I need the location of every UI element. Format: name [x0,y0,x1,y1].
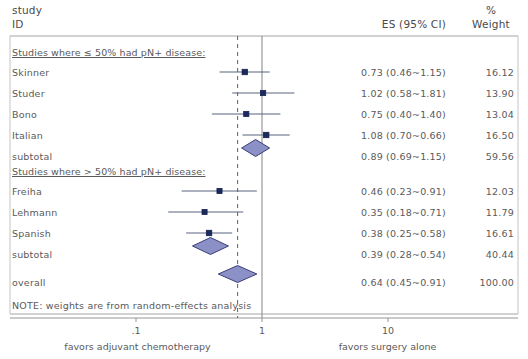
row-weight-bono: 13.04 [468,109,514,120]
row-label-lehmann: Lehmann [12,207,58,218]
header-weight-label: Weight [468,18,514,30]
row-es-subtotal-low: 0.89 (0.69~1.15) [350,151,446,162]
group-heading-high-pn: Studies where > 50% had pN+ disease: [12,166,205,177]
row-es-freiha: 0.46 (0.23~0.91) [350,186,446,197]
row-weight-overall: 100.00 [468,277,514,288]
header-study-label: study [12,4,42,16]
header-es-label: ES (95% CI) [350,18,446,30]
row-weight-subtotal-high: 40.44 [468,249,514,260]
point-estimate-marker-skinner [242,69,247,74]
row-label-skinner: Skinner [12,67,49,78]
point-estimate-marker-spanish [206,230,211,235]
axis-caption-left: favors adjuvant chemotherapy [30,341,245,352]
row-weight-subtotal-low: 59.56 [468,151,514,162]
point-estimate-marker-bono [244,111,249,116]
header-id-label: ID [12,18,24,30]
row-label-spanish: Spanish [12,228,51,239]
axis-caption-right: favors surgery alone [300,341,475,352]
point-estimate-marker-lehmann [202,209,207,214]
row-es-spanish: 0.38 (0.25~0.58) [350,228,446,239]
row-label-freiha: Freiha [12,186,42,197]
row-label-subtotal-low: subtotal [12,151,52,162]
subtotal-diamond-subtotal-low [242,140,270,157]
row-es-lehmann: 0.35 (0.18~0.71) [350,207,446,218]
row-label-italian: Italian [12,130,43,141]
row-label-subtotal-high: subtotal [12,249,52,260]
overall-diamond-overall [218,266,257,283]
row-label-overall: overall [12,277,46,288]
row-weight-skinner: 16.12 [468,67,514,78]
row-es-bono: 0.75 (0.40~1.40) [350,109,446,120]
row-es-italian: 1.08 (0.70~0.66) [350,130,446,141]
row-weight-lehmann: 11.79 [468,207,514,218]
point-estimate-marker-studer [260,90,265,95]
subtotal-diamond-subtotal-high [193,238,229,255]
row-es-overall: 0.64 (0.45~0.91) [350,277,446,288]
header-percent-label: % [468,4,514,16]
group-heading-low-pn: Studies where ≤ 50% had pN+ disease: [12,47,205,58]
row-label-studer: Studer [12,88,45,99]
row-weight-freiha: 12.03 [468,186,514,197]
row-weight-studer: 13.90 [468,88,514,99]
watermark-artifact [430,350,432,355]
row-es-studer: 1.02 (0.58~1.81) [350,88,446,99]
row-es-subtotal-high: 0.39 (0.28~0.54) [350,249,446,260]
point-estimate-marker-freiha [217,188,222,193]
axis-tick-label-2: 10 [368,325,408,336]
row-weight-spanish: 16.61 [468,228,514,239]
note-text: NOTE: weights are from random-effects an… [12,300,251,311]
row-es-skinner: 0.73 (0.46~1.15) [350,67,446,78]
axis-tick-label-1: 1 [242,325,282,336]
axis-tick-label-0: .1 [116,325,156,336]
point-estimate-marker-italian [263,132,268,137]
row-label-bono: Bono [12,109,37,120]
row-weight-italian: 16.50 [468,130,514,141]
